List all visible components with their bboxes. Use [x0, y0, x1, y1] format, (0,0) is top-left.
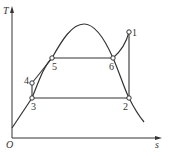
x-axis-label: s	[155, 139, 159, 150]
y-axis-label: T	[3, 5, 10, 16]
liquid-line	[12, 98, 32, 128]
origin-label: O	[6, 139, 13, 150]
state-point-5	[50, 56, 54, 60]
state-point-4	[30, 81, 34, 85]
state-point-3	[30, 96, 34, 100]
label-point-6: 6	[109, 61, 114, 72]
state-point-1	[127, 30, 131, 34]
y-axis-arrow-icon	[10, 6, 14, 13]
ts-diagram-canvas: T s O 1 2 3 4 5 6	[0, 0, 171, 164]
state-point-6	[111, 56, 115, 60]
label-point-1: 1	[132, 27, 137, 38]
label-point-5: 5	[52, 61, 57, 72]
process-6-1	[113, 32, 129, 58]
label-point-2: 2	[123, 101, 128, 112]
ts-diagram: T s O 1 2 3 4 5 6	[0, 0, 171, 164]
label-point-3: 3	[31, 101, 36, 112]
process-4-5	[32, 58, 52, 83]
state-point-2	[127, 96, 131, 100]
label-point-4: 4	[24, 75, 29, 86]
